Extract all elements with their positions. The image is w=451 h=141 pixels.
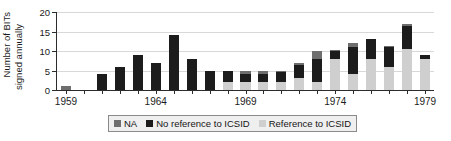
x-axis-tick-mark bbox=[263, 91, 264, 94]
y-axis-tick-label: 20 bbox=[39, 7, 50, 18]
y-axis-title-line-1: Number of BITs bbox=[2, 12, 12, 77]
bar-segment bbox=[97, 74, 107, 90]
bar-segment bbox=[402, 49, 412, 90]
y-axis-tick-label: 0 bbox=[45, 85, 50, 96]
y-axis-tick-label: 10 bbox=[39, 46, 50, 57]
bar-segment bbox=[294, 78, 304, 90]
y-axis-title-line-2: signed annually bbox=[14, 24, 24, 90]
bar bbox=[312, 51, 322, 90]
x-axis-tick-mark bbox=[371, 91, 372, 94]
bar bbox=[205, 71, 215, 91]
bar bbox=[187, 59, 197, 90]
bar-segment bbox=[276, 82, 286, 90]
bar-segment bbox=[115, 67, 125, 90]
legend-swatch-icon bbox=[259, 120, 266, 127]
x-axis-tick-label: 1974 bbox=[324, 96, 346, 107]
y-axis-title: Number of BITs signed annually bbox=[0, 6, 30, 96]
bar bbox=[384, 46, 394, 90]
x-axis-tick-label: 1979 bbox=[414, 96, 436, 107]
plot-area: 05101520 19591964196919741979 bbox=[56, 12, 434, 90]
bar bbox=[366, 39, 376, 90]
bar-segment bbox=[240, 82, 250, 90]
x-axis-tick-mark bbox=[66, 91, 67, 94]
bar-segment bbox=[348, 47, 358, 74]
x-axis-tick-mark bbox=[281, 91, 282, 94]
x-axis-tick-mark bbox=[192, 91, 193, 94]
chart-legend: NANo reference to ICSIDReference to ICSI… bbox=[108, 115, 357, 132]
bar-segment bbox=[133, 55, 143, 90]
legend-item-label: NA bbox=[124, 118, 137, 129]
bar-segment bbox=[348, 74, 358, 90]
legend-item-label: Reference to ICSID bbox=[269, 118, 351, 129]
bar-chart-figure: Number of BITs signed annually 05101520 … bbox=[0, 0, 451, 141]
bar-segment bbox=[258, 74, 268, 82]
x-axis-tick-mark bbox=[120, 91, 121, 94]
bar bbox=[115, 67, 125, 90]
x-axis-tick-label: 1959 bbox=[55, 96, 77, 107]
x-axis-tick-mark bbox=[102, 91, 103, 94]
bar bbox=[294, 63, 304, 90]
x-axis-tick-label: 1964 bbox=[145, 96, 167, 107]
bar bbox=[258, 71, 268, 90]
legend-item[interactable]: No reference to ICSID bbox=[146, 118, 249, 129]
bar bbox=[133, 55, 143, 90]
bar-segment bbox=[223, 71, 233, 83]
y-axis-tick-mark bbox=[52, 32, 56, 33]
x-axis-tick-mark bbox=[246, 91, 247, 94]
bar bbox=[240, 71, 250, 90]
bar-segment bbox=[312, 51, 322, 59]
x-axis-tick-mark bbox=[407, 91, 408, 94]
legend-swatch-icon bbox=[146, 120, 153, 127]
y-axis-tick-mark bbox=[52, 51, 56, 52]
x-axis-tick-mark bbox=[138, 91, 139, 94]
bar bbox=[348, 43, 358, 90]
bar bbox=[223, 71, 233, 90]
x-axis-tick-mark bbox=[156, 91, 157, 94]
x-axis-tick-mark bbox=[84, 91, 85, 94]
x-axis-tick-mark bbox=[389, 91, 390, 94]
y-axis-tick-label: 15 bbox=[39, 26, 50, 37]
legend-item[interactable]: NA bbox=[114, 118, 137, 129]
bar-segment bbox=[420, 59, 430, 90]
bar-segment bbox=[402, 26, 412, 49]
bar-series-group bbox=[57, 12, 434, 90]
x-axis-tick-mark bbox=[353, 91, 354, 94]
x-axis-tick-label: 1969 bbox=[234, 96, 256, 107]
x-axis-tick-mark bbox=[228, 91, 229, 94]
bar bbox=[276, 71, 286, 90]
bar-segment bbox=[187, 59, 197, 90]
bar-segment bbox=[312, 82, 322, 90]
x-axis-tick-mark bbox=[299, 91, 300, 94]
bar bbox=[169, 35, 179, 90]
bar bbox=[330, 50, 340, 90]
bar-segment bbox=[384, 67, 394, 90]
bar bbox=[402, 24, 412, 90]
x-axis-tick-mark bbox=[174, 91, 175, 94]
x-axis-tick-mark bbox=[425, 91, 426, 94]
bar-segment bbox=[169, 35, 179, 90]
bar-segment bbox=[276, 72, 286, 82]
bar-segment bbox=[312, 59, 322, 82]
legend-item-label: No reference to ICSID bbox=[156, 118, 249, 129]
x-axis-tick-mark bbox=[317, 91, 318, 94]
y-axis-tick-mark bbox=[52, 90, 56, 91]
bar bbox=[420, 55, 430, 90]
legend-swatch-icon bbox=[114, 120, 121, 127]
bar bbox=[97, 74, 107, 90]
x-axis-tick-mark bbox=[210, 91, 211, 94]
bar-segment bbox=[294, 65, 304, 79]
bar bbox=[61, 86, 71, 90]
bar bbox=[151, 63, 161, 90]
bar-segment bbox=[258, 82, 268, 90]
bar-segment bbox=[223, 82, 233, 90]
legend-item[interactable]: Reference to ICSID bbox=[259, 118, 351, 129]
bar-segment bbox=[240, 74, 250, 82]
y-axis-tick-mark bbox=[52, 12, 56, 13]
y-axis-tick-label: 5 bbox=[45, 65, 50, 76]
bar-segment bbox=[366, 39, 376, 59]
bar-segment bbox=[366, 59, 376, 90]
bar-segment bbox=[61, 86, 71, 90]
bar-segment bbox=[151, 63, 161, 90]
bar-segment bbox=[330, 51, 340, 59]
bar-segment bbox=[384, 47, 394, 67]
